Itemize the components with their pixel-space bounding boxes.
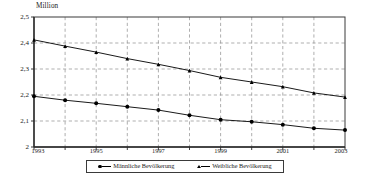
data-point-marker [312,126,316,130]
triangle-marker-icon [197,163,210,170]
circle-marker-icon [98,163,111,170]
y-tick-label: 2,1 [20,117,29,125]
y-tick-label: 2,2 [20,91,29,99]
data-point-marker [156,108,160,112]
y-axis-unit-label: Million [36,2,58,10]
legend-item-label: Männliche Bevölkerung [113,163,174,169]
data-point-marker [219,118,223,122]
data-point-marker [188,113,192,117]
data-point-marker [281,123,285,127]
data-point-marker [343,128,347,132]
x-tick-label: 1999 [214,147,227,154]
x-tick-label: 1997 [152,147,165,154]
data-point-marker [250,120,254,124]
chart-legend: Männliche BevölkerungWeibliche Bevölkeru… [86,160,284,173]
legend-item-1: Männliche Bevölkerung [98,163,174,170]
y-tick-label: 2,3 [20,65,29,73]
x-axis-tick-labels: 199319951997199920012003 [0,147,369,161]
data-point-marker [94,101,98,105]
data-point-marker [32,94,36,98]
x-tick-label: 2003 [335,147,348,154]
x-tick-label: 1995 [90,147,103,154]
data-point-marker [125,105,129,109]
x-tick-label: 1993 [32,147,45,154]
y-tick-label: 2,4 [20,39,29,47]
legend-item-label: Weibliche Bevölkerung [212,163,271,169]
legend-item-2: Weibliche Bevölkerung [197,163,271,170]
line-chart: Million 22,12,22,32,42,5 199319951997199… [0,0,369,180]
data-point-marker [63,98,67,102]
y-tick-label: 2,5 [20,13,29,21]
x-tick-label: 2001 [276,147,289,154]
